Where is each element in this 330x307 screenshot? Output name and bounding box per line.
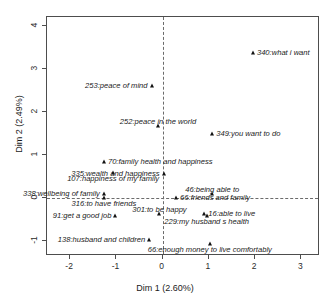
y-axis-tick-label: 0: [29, 191, 39, 203]
y-axis-tick: [42, 25, 46, 26]
y-axis-tick-label: 3: [29, 62, 39, 74]
y-axis-tick-label: 4: [29, 19, 39, 31]
x-axis-tick-label: 3: [298, 261, 303, 271]
x-axis-tick: [115, 255, 116, 259]
data-point-label: 16:able to live: [208, 210, 255, 218]
data-point-marker: [147, 238, 151, 242]
data-point-label: 70:family health and happiness: [108, 158, 213, 166]
data-point-label: 138:husband and children: [58, 236, 145, 244]
y-axis-tick-label: -1: [29, 234, 39, 246]
data-point-marker: [210, 132, 214, 136]
data-point-marker: [251, 50, 255, 54]
plot-area: 340:what i want253:peace of mind252:peac…: [46, 16, 319, 255]
data-point-label: 340:what i want: [257, 49, 310, 57]
x-axis-tick-label: 2: [252, 261, 257, 271]
x-axis-tick: [162, 255, 163, 259]
data-point-label: 91:get a good job: [53, 212, 112, 220]
y-axis-tick: [42, 240, 46, 241]
data-point-label: 229:my husband s health: [164, 218, 249, 226]
x-axis-tick-label: 0: [159, 261, 164, 271]
y-axis-tick-label: 2: [29, 105, 39, 117]
y-axis-title: Dim 2 (2.49%): [14, 54, 24, 194]
data-point-marker: [150, 83, 154, 87]
data-point-label: 301:to be happy: [132, 206, 186, 214]
x-axis-tick-label: -2: [65, 261, 73, 271]
data-point-marker: [102, 160, 106, 164]
x-axis-tick: [69, 255, 70, 259]
x-axis-tick-label: 1: [206, 261, 211, 271]
x-axis-title: Dim 1 (2.60%): [0, 283, 330, 293]
data-point-label: 349:you want to do: [216, 130, 280, 138]
x-axis-tick: [208, 255, 209, 259]
data-point-label: 66:enough money to live comfortably: [148, 246, 272, 254]
y-axis-tick: [42, 111, 46, 112]
data-point-label: 252:peace in the world: [120, 118, 196, 126]
data-point-label: 66:friends and family: [180, 194, 250, 202]
data-point-label: 316:to have friends: [72, 200, 137, 208]
y-axis-tick: [42, 68, 46, 69]
data-point-marker: [202, 211, 206, 215]
data-point-marker: [162, 171, 166, 175]
scatter-plot-figure: 340:what i want253:peace of mind252:peac…: [0, 0, 330, 307]
y-axis-tick: [42, 197, 46, 198]
data-point-marker: [113, 214, 117, 218]
data-point-label: 253:peace of mind: [85, 82, 147, 90]
y-axis-tick: [42, 154, 46, 155]
data-point-label: 335:wealth and happiness: [71, 170, 159, 178]
x-axis-tick: [254, 255, 255, 259]
data-point-marker: [174, 195, 178, 199]
x-axis-tick: [300, 255, 301, 259]
y-axis-tick-label: 1: [29, 148, 39, 160]
x-axis-tick-label: -1: [112, 261, 120, 271]
